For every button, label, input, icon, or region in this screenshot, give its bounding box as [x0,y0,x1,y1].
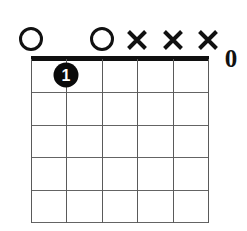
string-line-3 [102,59,103,223]
finger-dot-1: 1 [54,63,79,88]
string-line-4 [137,59,138,223]
chord-diagram: 1 0 [0,0,247,231]
fretboard-grid [0,0,247,231]
corner-glyph: 0 [225,46,238,71]
fret-line-2 [31,125,209,126]
nut-bar [31,56,209,61]
fret-line-4 [31,190,209,191]
string-line-5 [173,59,174,223]
fret-line-5 [31,222,209,223]
fret-line-3 [31,157,209,158]
string-line-6 [208,59,209,223]
string-line-1 [31,59,32,223]
fret-line-1 [31,92,209,93]
finger-dot-label: 1 [62,67,71,83]
